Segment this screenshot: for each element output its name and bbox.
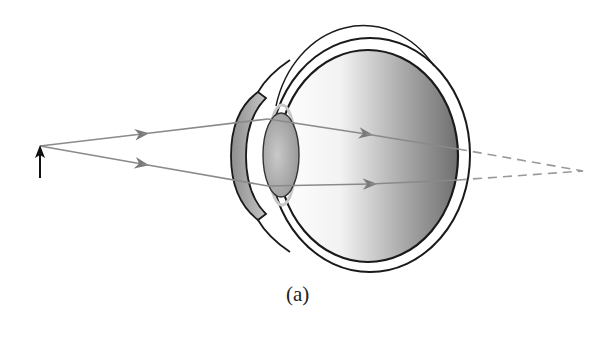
lens [263,113,299,197]
dashed-extension-upper [458,149,583,171]
figure-caption-label: (a) [286,282,309,307]
dashed-extension-lower [458,171,583,180]
object-arrow [35,145,45,178]
